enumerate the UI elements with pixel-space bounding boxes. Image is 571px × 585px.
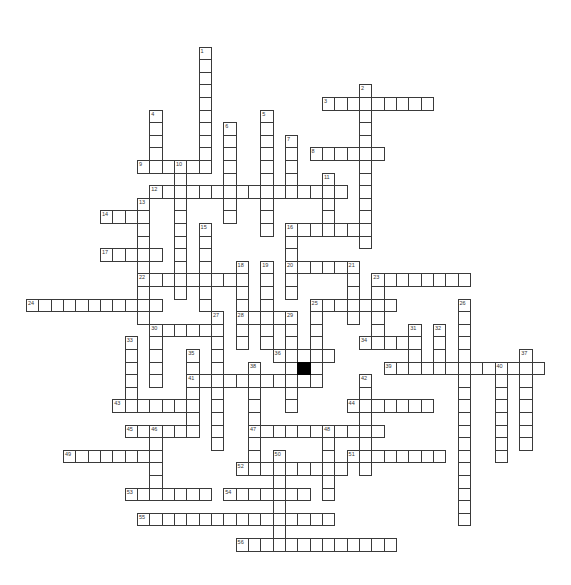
crossword-cell[interactable] [248, 399, 261, 413]
crossword-cell[interactable]: 7 [285, 135, 298, 149]
crossword-cell[interactable]: 37 [519, 349, 532, 363]
crossword-cell[interactable] [88, 450, 101, 464]
crossword-cell[interactable] [137, 450, 150, 464]
crossword-cell[interactable] [149, 349, 162, 363]
crossword-cell[interactable] [125, 399, 138, 413]
crossword-cell[interactable] [519, 362, 532, 376]
crossword-cell[interactable] [297, 374, 310, 388]
crossword-cell[interactable] [137, 223, 150, 237]
crossword-cell[interactable] [519, 437, 532, 451]
crossword-cell[interactable] [260, 185, 273, 199]
crossword-cell[interactable] [137, 425, 150, 439]
crossword-cell[interactable] [285, 185, 298, 199]
crossword-cell[interactable] [334, 425, 347, 439]
crossword-cell[interactable] [322, 475, 335, 489]
crossword-cell[interactable] [211, 336, 224, 350]
crossword-cell[interactable]: 3 [322, 97, 335, 111]
crossword-cell[interactable] [285, 173, 298, 187]
crossword-cell[interactable] [421, 399, 434, 413]
crossword-cell[interactable] [236, 336, 249, 350]
crossword-cell[interactable] [371, 97, 384, 111]
crossword-cell[interactable] [334, 462, 347, 476]
crossword-cell[interactable] [186, 273, 199, 287]
crossword-cell[interactable]: 29 [285, 311, 298, 325]
crossword-cell[interactable]: 47 [248, 425, 261, 439]
crossword-cell[interactable] [297, 349, 310, 363]
crossword-cell[interactable] [371, 450, 384, 464]
crossword-cell[interactable]: 44 [347, 399, 360, 413]
crossword-cell[interactable] [371, 299, 384, 313]
crossword-cell[interactable] [322, 538, 335, 552]
crossword-cell[interactable] [347, 538, 360, 552]
crossword-cell[interactable] [149, 248, 162, 262]
crossword-cell[interactable] [199, 236, 212, 250]
crossword-cell[interactable] [223, 210, 236, 224]
crossword-cell[interactable]: 55 [137, 513, 150, 527]
crossword-cell[interactable] [199, 324, 212, 338]
crossword-cell[interactable] [273, 525, 286, 539]
crossword-cell[interactable] [396, 336, 409, 350]
crossword-cell[interactable]: 10 [174, 160, 187, 174]
crossword-cell[interactable] [310, 311, 323, 325]
crossword-cell[interactable] [458, 488, 471, 502]
crossword-cell[interactable] [260, 273, 273, 287]
crossword-cell[interactable] [458, 399, 471, 413]
crossword-cell[interactable] [433, 336, 446, 350]
crossword-cell[interactable] [285, 349, 298, 363]
crossword-cell[interactable] [359, 387, 372, 401]
crossword-cell[interactable] [174, 261, 187, 275]
crossword-cell[interactable] [519, 374, 532, 388]
crossword-cell[interactable] [248, 488, 261, 502]
crossword-cell[interactable]: 31 [408, 324, 421, 338]
crossword-cell[interactable]: 40 [495, 362, 508, 376]
crossword-cell[interactable]: 6 [223, 122, 236, 136]
crossword-cell[interactable] [310, 425, 323, 439]
crossword-cell[interactable] [458, 324, 471, 338]
crossword-cell[interactable] [408, 336, 421, 350]
crossword-cell[interactable] [236, 324, 249, 338]
crossword-cell[interactable] [322, 450, 335, 464]
crossword-cell[interactable] [149, 299, 162, 313]
crossword-cell[interactable] [322, 462, 335, 476]
crossword-cell[interactable] [347, 425, 360, 439]
crossword-cell[interactable] [495, 450, 508, 464]
crossword-cell[interactable] [359, 425, 372, 439]
crossword-cell[interactable] [347, 97, 360, 111]
crossword-cell[interactable] [260, 198, 273, 212]
crossword-cell[interactable] [470, 362, 483, 376]
crossword-cell[interactable] [211, 349, 224, 363]
crossword-cell[interactable] [458, 374, 471, 388]
crossword-cell[interactable] [236, 286, 249, 300]
crossword-cell[interactable]: 32 [433, 324, 446, 338]
crossword-cell[interactable] [260, 374, 273, 388]
crossword-cell[interactable] [371, 425, 384, 439]
crossword-cell[interactable] [186, 387, 199, 401]
crossword-cell[interactable] [285, 362, 298, 376]
crossword-cell[interactable] [137, 299, 150, 313]
crossword-cell[interactable] [396, 362, 409, 376]
crossword-cell[interactable] [310, 261, 323, 275]
crossword-cell[interactable]: 21 [347, 261, 360, 275]
crossword-cell[interactable] [248, 185, 261, 199]
crossword-cell[interactable] [125, 299, 138, 313]
crossword-cell[interactable]: 25 [310, 299, 323, 313]
crossword-cell[interactable] [458, 500, 471, 514]
crossword-cell[interactable]: 45 [125, 425, 138, 439]
crossword-cell[interactable] [248, 437, 261, 451]
crossword-cell[interactable] [260, 336, 273, 350]
crossword-cell[interactable]: 9 [137, 160, 150, 174]
crossword-cell[interactable] [186, 399, 199, 413]
crossword-cell[interactable] [322, 513, 335, 527]
crossword-cell[interactable] [297, 261, 310, 275]
crossword-cell[interactable] [199, 513, 212, 527]
crossword-cell[interactable] [371, 538, 384, 552]
crossword-cell[interactable]: 13 [137, 198, 150, 212]
crossword-cell[interactable] [371, 336, 384, 350]
crossword-cell[interactable]: 24 [26, 299, 39, 313]
crossword-cell[interactable] [408, 273, 421, 287]
crossword-cell[interactable] [495, 387, 508, 401]
crossword-cell[interactable] [396, 450, 409, 464]
crossword-cell[interactable] [310, 362, 323, 376]
crossword-cell[interactable] [421, 273, 434, 287]
crossword-cell[interactable] [137, 248, 150, 262]
